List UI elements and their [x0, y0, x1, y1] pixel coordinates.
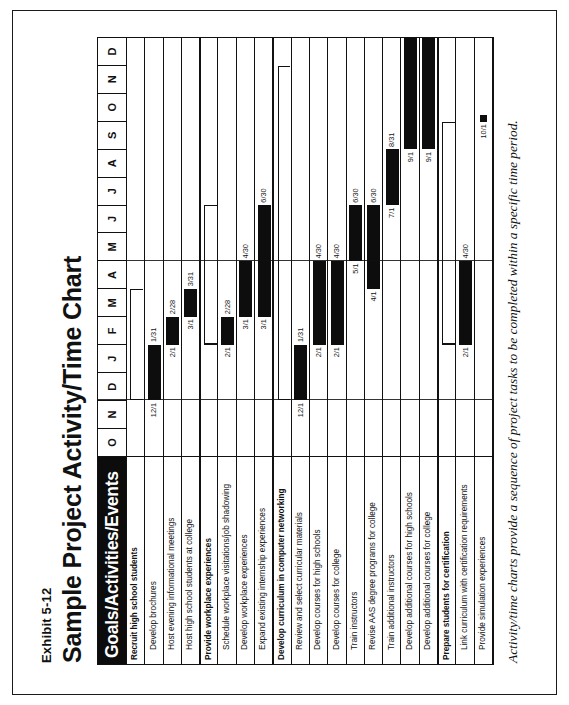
table-row: Host high school students at college3/13…	[181, 38, 199, 664]
table-row: Link curriculum with certification requi…	[456, 38, 474, 664]
gantt-track: 2/12/28	[163, 38, 181, 456]
group-span-bracket	[130, 288, 142, 399]
bar-start-date: 2/1	[314, 344, 323, 357]
month-header-cell: D	[98, 372, 126, 400]
gantt-track	[200, 38, 218, 456]
table-row: Train additional instructors7/18/31	[383, 38, 401, 664]
bar-end-date: 4/30	[314, 244, 323, 261]
group-label: Recruit high school students	[127, 456, 145, 664]
group-span-bracket	[277, 65, 289, 399]
gantt-track: 2/14/30	[456, 38, 474, 456]
column-header-activities: Goals/Activities/Events	[98, 456, 127, 664]
month-header-cell: M	[98, 288, 126, 316]
month-header-cell: S	[98, 120, 126, 148]
table-row: Schedule workplace visitations/job shado…	[218, 38, 236, 664]
month-header-cell: O	[98, 428, 126, 456]
gantt-track: 7/18/31	[383, 38, 401, 456]
table-row: Revise AAS degree programs for college4/…	[364, 38, 382, 664]
table-row: Develop courses for high schools2/14/30	[309, 38, 327, 664]
gantt-track: 2/14/30	[309, 38, 327, 456]
task-label: Develop workplace experiences	[236, 456, 254, 664]
month-header-cell: J	[98, 176, 126, 204]
table-row: Recruit high school students	[127, 38, 145, 664]
task-label: Train instructors	[346, 456, 364, 664]
task-label: Review and select curricular materials	[291, 456, 309, 664]
bar-end-date: 6/30	[350, 188, 359, 205]
bar-start-date: 10/1	[478, 121, 487, 138]
group-span-bracket	[204, 205, 216, 344]
gantt-bar	[221, 316, 234, 344]
gantt-track	[438, 38, 456, 456]
page-frame: Exhibit 5-12 Sample Project Activity/Tim…	[12, 10, 557, 695]
gantt-track: 3/16/30	[255, 38, 273, 456]
milestone-marker	[480, 114, 487, 121]
gantt-track: 4/16/30	[364, 38, 382, 456]
bar-start-date: 9/1	[423, 149, 432, 162]
gantt-track: 10/1	[474, 38, 492, 456]
bar-end-date: 1/31	[149, 327, 158, 344]
bar-start-date: 2/1	[460, 344, 469, 357]
task-label: Develop courses for high schools	[309, 456, 327, 664]
bar-start-date: 12/1	[295, 400, 304, 417]
group-label: Develop curriculum in computer networkin…	[273, 456, 291, 664]
bar-end-date: 8/31	[387, 132, 396, 149]
gantt-bar	[458, 260, 471, 344]
gantt-track: 3/13/31	[181, 38, 199, 456]
bar-start-date: 4/1	[369, 288, 378, 301]
table-row: Expand existing internship experiences3/…	[255, 38, 273, 664]
gantt-track: 5/16/30	[346, 38, 364, 456]
bar-start-date: 2/1	[222, 344, 231, 357]
table-row: Develop additional courses for college9/…	[419, 38, 437, 664]
task-label: Host high school students at college	[181, 456, 199, 664]
table-row: Train instructors5/16/30	[346, 38, 364, 664]
table-row: Host evening informational meetings2/12/…	[163, 38, 181, 664]
table-row: Provide workplace experiences	[200, 38, 218, 664]
bar-end-date: 6/30	[259, 188, 268, 205]
task-label: Schedule workplace visitations/job shado…	[218, 456, 236, 664]
gantt-track	[273, 38, 291, 456]
month-header-cell: A	[98, 148, 126, 176]
gantt-bar	[184, 288, 197, 316]
task-label: Revise AAS degree programs for college	[364, 456, 382, 664]
table-row: Develop courses for college2/14/30	[328, 38, 346, 664]
table-row: Develop workplace experiences3/14/30	[236, 38, 254, 664]
task-label: Develop additional courses for high scho…	[401, 456, 419, 664]
gantt-bar	[404, 38, 417, 149]
bar-end-date: 4/30	[240, 244, 249, 261]
bar-start-date: 3/1	[259, 316, 268, 329]
bar-start-date: 12/1	[149, 400, 158, 417]
bar-start-date: 7/1	[387, 205, 396, 218]
month-header-cell: J	[98, 344, 126, 372]
month-header-cell: J	[98, 204, 126, 232]
exhibit-number: Exhibit 5-12	[39, 39, 54, 663]
bar-start-date: 2/1	[167, 344, 176, 357]
gantt-bar	[385, 149, 398, 205]
gantt-bar	[239, 260, 252, 316]
gantt-track: 12/11/31	[291, 38, 309, 456]
group-label: Prepare students for certification	[438, 456, 456, 664]
gantt-bar	[257, 205, 270, 316]
bar-start-date: 5/1	[350, 260, 359, 273]
table-row: Provide simulation experiences10/1	[474, 38, 492, 664]
month-header-cell: A	[98, 260, 126, 288]
gantt-track: 2/14/30	[328, 38, 346, 456]
gantt-track	[127, 38, 145, 456]
gantt-track: 3/14/30	[236, 38, 254, 456]
page-title: Sample Project Activity/Time Chart	[58, 39, 87, 663]
bar-end-date: 6/30	[369, 188, 378, 205]
task-label: Expand existing internship experiences	[255, 456, 273, 664]
table-row: Develop additional courses for high scho…	[401, 38, 419, 664]
bar-start-date: 3/1	[186, 316, 195, 329]
gantt-header-row: Goals/Activities/Events ONDJFMAMJJASOND	[98, 38, 127, 664]
month-header-cell: N	[98, 400, 126, 428]
bar-end-date: 3/31	[186, 271, 195, 288]
rotated-chart-stage: Exhibit 5-12 Sample Project Activity/Tim…	[25, 23, 545, 683]
gantt-bar	[312, 260, 325, 344]
gantt-track: 9/1	[419, 38, 437, 456]
task-label: Provide simulation experiences	[474, 456, 492, 664]
gantt-track: 9/1	[401, 38, 419, 456]
group-label: Provide workplace experiences	[200, 456, 218, 664]
bar-start-date: 2/1	[332, 344, 341, 357]
gantt-bar	[147, 344, 160, 400]
gantt-bar	[349, 205, 362, 261]
